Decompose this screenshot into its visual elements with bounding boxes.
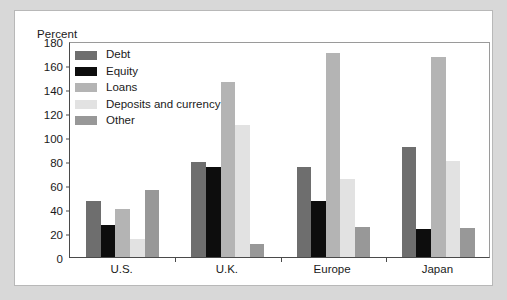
x-axis-label-1: U.K. <box>216 263 238 275</box>
figure-root: Percent 180160140120100806040200 U.S.U.K… <box>0 0 507 300</box>
bar-europe-equity <box>311 201 326 257</box>
y-tick-mark-40 <box>66 211 70 212</box>
bar-japan-other <box>460 228 475 257</box>
legend-item-loans: Loans <box>75 80 220 96</box>
legend-label: Other <box>106 115 135 127</box>
legend-item-debt: Debt <box>75 47 220 63</box>
y-tick-mark-160 <box>66 67 70 68</box>
bar-uk-deposits <box>235 125 250 257</box>
bar-europe-other <box>355 227 370 257</box>
bar-europe-debt <box>297 167 312 257</box>
x-axis-label-3: Japan <box>422 263 453 275</box>
y-tick-mark-20 <box>66 235 70 236</box>
bar-uk-loans <box>221 82 236 257</box>
bar-japan-debt <box>402 147 417 257</box>
bar-uk-equity <box>206 167 221 257</box>
legend-swatch-icon-equity <box>75 67 97 76</box>
legend-item-other: Other <box>75 113 220 129</box>
legend-swatch-icon-debt <box>75 51 97 60</box>
bar-europe-deposits <box>340 179 355 257</box>
bar-europe-loans <box>326 53 341 257</box>
legend-item-deposits: Deposits and currency <box>75 96 220 112</box>
y-tick-mark-100 <box>66 139 70 140</box>
y-tick-label-180: 180 <box>44 37 70 49</box>
legend-item-equity: Equity <box>75 63 220 79</box>
bar-japan-equity <box>416 229 431 257</box>
y-tick-label-0: 0 <box>57 253 70 265</box>
bar-us-deposits <box>130 239 145 257</box>
bar-us-loans <box>115 209 130 257</box>
x-axis-label-0: U.S. <box>110 263 132 275</box>
legend-swatch-icon-loans <box>75 83 97 92</box>
legend-swatch-icon-other <box>75 116 97 125</box>
bar-us-equity <box>101 225 116 257</box>
y-tick-mark-140 <box>66 91 70 92</box>
bar-japan-loans <box>431 57 446 257</box>
bar-uk-other <box>250 244 265 257</box>
legend-label: Equity <box>106 66 138 78</box>
bar-us-other <box>145 190 160 257</box>
y-tick-mark-120 <box>66 115 70 116</box>
x-axis-separator-1 <box>175 257 176 262</box>
y-tick-mark-80 <box>66 163 70 164</box>
x-axis-label-2: Europe <box>314 263 351 275</box>
bar-us-debt <box>86 201 101 257</box>
legend-label: Deposits and currency <box>106 99 220 111</box>
bar-japan-deposits <box>446 161 461 257</box>
bar-uk-debt <box>191 162 206 257</box>
legend-label: Debt <box>106 49 130 61</box>
legend-swatch-icon-deposits <box>75 100 97 109</box>
y-tick-mark-60 <box>66 187 70 188</box>
x-axis-separator-3 <box>386 257 387 262</box>
x-axis-separator-2 <box>281 257 282 262</box>
chart-legend: DebtEquityLoansDeposits and currencyOthe… <box>75 47 220 129</box>
chart-panel: Percent 180160140120100806040200 U.S.U.K… <box>14 10 493 286</box>
legend-label: Loans <box>106 82 137 94</box>
